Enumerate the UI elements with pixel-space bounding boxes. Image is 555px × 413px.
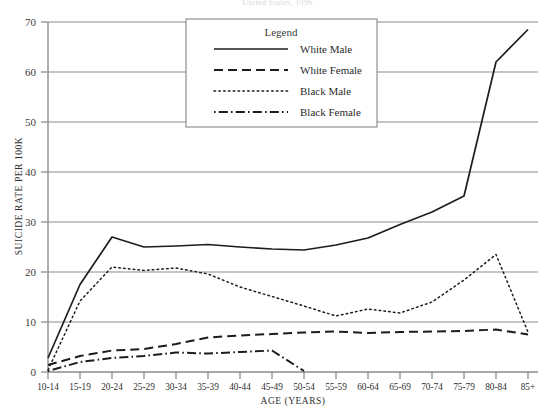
- y-axis-tick-label: 10: [25, 316, 37, 328]
- y-axis-tick-label: 70: [25, 16, 37, 28]
- y-axis-tick-label: 60: [25, 66, 37, 78]
- x-axis-tick-label: 45-49: [261, 382, 283, 392]
- x-axis-tick-label: 75-79: [453, 382, 475, 392]
- x-axis-tick-label: 25-29: [133, 382, 155, 392]
- chart-legend: Legend White MaleWhite FemaleBlack MaleB…: [186, 19, 377, 127]
- y-axis-tick-label: 50: [25, 116, 37, 128]
- x-axis-tick-label: 20-24: [101, 382, 123, 392]
- legend-label-black-female: Black Female: [300, 106, 361, 118]
- y-axis-tick-label: 20: [25, 266, 37, 278]
- x-axis-tick-label: 50-54: [293, 382, 315, 392]
- x-axis-tick-label: 35-39: [197, 382, 219, 392]
- y-axis-ticks-group: [41, 22, 48, 372]
- series-line-black-female: [48, 351, 304, 372]
- x-axis-tick-label: 80-84: [485, 382, 507, 392]
- x-axis-tick-label: 15-19: [69, 382, 91, 392]
- x-axis-ticks-group: [48, 372, 528, 379]
- y-axis-tick-labels-group: 010203040506070: [25, 16, 37, 378]
- legend-label-white-male: White Male: [300, 43, 352, 55]
- y-axis-title: SUICIDE RATE PER 100K: [14, 137, 24, 255]
- x-axis-tick-label: 65-69: [389, 382, 411, 392]
- x-axis-tick-label: 70-74: [421, 382, 443, 392]
- x-axis-title: AGE (YEARS): [261, 396, 326, 407]
- x-axis-tick-label: 30-34: [165, 382, 187, 392]
- x-axis-tick-label: 10-14: [37, 382, 59, 392]
- x-axis-tick-label: 40-44: [229, 382, 251, 392]
- y-axis-tick-label: 0: [31, 366, 37, 378]
- legend-title: Legend: [265, 26, 298, 38]
- x-axis-tick-label: 55-59: [325, 382, 347, 392]
- suicide-rate-line-chart: United States, 1996 010203040506070 10-1…: [0, 0, 555, 413]
- legend-label-white-female: White Female: [300, 64, 362, 76]
- x-axis-tick-label: 85+: [521, 382, 536, 392]
- chart-canvas: 010203040506070 10-1415-1920-2425-2930-3…: [0, 0, 555, 413]
- y-axis-tick-label: 30: [25, 216, 37, 228]
- y-axis-tick-label: 40: [25, 166, 37, 178]
- x-axis-tick-label: 60-64: [357, 382, 379, 392]
- legend-label-black-male: Black Male: [300, 85, 351, 97]
- x-axis-tick-labels-group: 10-1415-1920-2425-2930-3435-3940-4445-49…: [37, 382, 535, 392]
